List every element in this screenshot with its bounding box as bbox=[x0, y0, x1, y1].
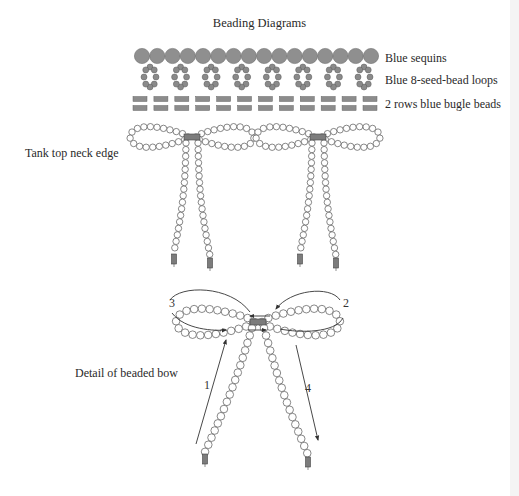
bugle-bead-icon bbox=[238, 106, 252, 111]
seed-bead-loop-icon bbox=[324, 64, 342, 90]
threading-arrows bbox=[170, 290, 343, 444]
sequin-icon bbox=[241, 48, 256, 63]
bugle-bead-icon bbox=[300, 97, 314, 102]
bugle-bead-icon bbox=[363, 106, 377, 111]
sequin-icon bbox=[195, 48, 210, 63]
sequin-icon bbox=[150, 48, 165, 63]
bugle-bead-icon bbox=[238, 97, 252, 102]
bugle-bead-icon bbox=[217, 97, 231, 102]
bugle-bead-icon bbox=[363, 97, 377, 102]
bugle-bead-icon bbox=[342, 106, 356, 111]
sequin-icon bbox=[363, 48, 378, 63]
bugle-bead-icon bbox=[196, 106, 210, 111]
center-bugle-icon bbox=[184, 134, 200, 140]
end-bugle-icon bbox=[172, 254, 177, 264]
bugle-bead-icon bbox=[217, 106, 231, 111]
seed-bead-loop-icon bbox=[263, 64, 281, 90]
bugle-bead-icon bbox=[279, 97, 293, 102]
seed-bead-loop-icon bbox=[294, 64, 312, 90]
end-bugle-icon bbox=[203, 454, 208, 464]
seed-bead-loop-icon bbox=[355, 64, 373, 90]
step-number-3: 3 bbox=[169, 296, 175, 310]
step-number-4: 4 bbox=[305, 381, 311, 395]
bugle-bead-icon bbox=[300, 106, 314, 111]
sequin-icon bbox=[333, 48, 348, 63]
bugle-bead-rows bbox=[133, 97, 377, 111]
beading-diagram-canvas: 1234 bbox=[0, 0, 519, 496]
bugle-bead-icon bbox=[258, 106, 272, 111]
neck-bow-1 bbox=[127, 123, 257, 271]
sequin-icon bbox=[211, 48, 226, 63]
neck-bow-2 bbox=[253, 123, 383, 271]
bugle-bead-icon bbox=[175, 97, 189, 102]
bugle-bead-icon bbox=[321, 97, 335, 102]
sequin-icon bbox=[257, 48, 272, 63]
end-bugle-icon bbox=[334, 258, 339, 268]
sequin-icon bbox=[348, 48, 363, 63]
bugle-bead-icon bbox=[154, 97, 168, 102]
end-bugle-icon bbox=[306, 457, 311, 467]
bugle-bead-icon bbox=[279, 106, 293, 111]
sequin-icon bbox=[165, 48, 180, 63]
bugle-bead-icon bbox=[175, 106, 189, 111]
sequin-icon bbox=[272, 48, 287, 63]
seed-bead-loop-icon bbox=[202, 64, 220, 90]
sequin-icon bbox=[287, 48, 302, 63]
bugle-bead-icon bbox=[196, 97, 210, 102]
bugle-bead-icon bbox=[133, 97, 147, 102]
sequin-icon bbox=[180, 48, 195, 63]
sequin-icon bbox=[302, 48, 317, 63]
center-bugle-icon bbox=[310, 134, 326, 140]
bugle-bead-icon bbox=[342, 97, 356, 102]
seed-bead-loop-row bbox=[141, 64, 373, 90]
seed-bead-loop-icon bbox=[141, 64, 159, 90]
sequin-icon bbox=[134, 48, 149, 63]
sequin-icon bbox=[226, 48, 241, 63]
bugle-bead-icon bbox=[321, 106, 335, 111]
end-bugle-icon bbox=[298, 254, 303, 264]
step-number-1: 1 bbox=[204, 378, 210, 392]
step-number-2: 2 bbox=[343, 296, 349, 310]
sequin-row bbox=[134, 48, 378, 63]
bugle-bead-icon bbox=[154, 106, 168, 111]
center-bugle-icon bbox=[250, 319, 266, 325]
sequin-icon bbox=[318, 48, 333, 63]
bugle-bead-icon bbox=[133, 106, 147, 111]
seed-bead-loop-icon bbox=[233, 64, 251, 90]
end-bugle-icon bbox=[208, 258, 213, 268]
bugle-bead-icon bbox=[258, 97, 272, 102]
seed-bead-loop-icon bbox=[172, 64, 190, 90]
neck-bows bbox=[127, 123, 383, 271]
thread-arrow-icon bbox=[196, 340, 226, 444]
